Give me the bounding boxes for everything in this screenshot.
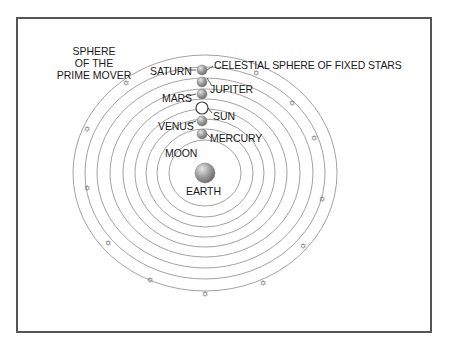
moon-crescent-icon [199,139,208,152]
star-icon: ✡ [105,239,112,248]
prime-mover-line3: PRIME MOVER [56,69,132,81]
star-icon: ✡ [289,99,296,108]
sun-icon [196,102,208,114]
jupiter-label: JUPITER [210,84,253,95]
venus-icon [197,116,207,126]
star-icon: ✡ [319,195,326,204]
mercury-label: MERCURY [210,133,262,144]
star-icon: ✡ [300,242,307,251]
prime-mover-label: SPHERE OF THE PRIME MOVER [56,45,132,81]
star-icon: ✡ [311,134,318,143]
star-icon: ✡ [147,276,154,285]
fixed-stars-label: CELESTIAL SPHERE OF FIXED STARS [214,60,402,71]
saturn-icon [197,65,207,75]
venus-label: VENUS [158,121,194,132]
prime-mover-line2: OF THE [56,57,132,69]
mercury-icon [197,129,207,139]
star-icon: ✡ [84,184,91,193]
star-icon: ✡ [202,290,209,299]
jupiter-icon [197,77,207,87]
prime-mover-line1: SPHERE [56,45,132,57]
star-icon: ✡ [260,279,267,288]
mars-icon [197,89,207,99]
fixed-stars-leader [207,66,213,70]
moon-label: MOON [165,148,197,159]
earth-icon [195,163,215,183]
mars-label: MARS [162,93,192,104]
saturn-label: SATURN [150,66,192,77]
star-icon: ✡ [84,125,91,134]
earth-label: EARTH [186,186,221,197]
sun-label: SUN [213,111,235,122]
